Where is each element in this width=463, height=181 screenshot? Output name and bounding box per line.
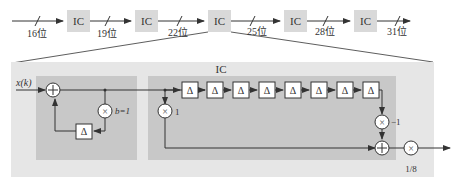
svg-text:Δ: Δ [264,85,271,96]
ic-block-5: IC [354,10,377,32]
integrator-gain: b=1 [115,106,130,116]
ic-block-1: IC [67,10,90,32]
bit-width-label: 22位 [168,26,188,38]
svg-text:Δ: Δ [81,126,88,137]
svg-text:Δ: Δ [212,85,219,96]
svg-text:Δ: Δ [368,85,375,96]
ic-title: IC [216,63,227,75]
ic-block-4: IC [284,10,307,32]
svg-text:Δ: Δ [187,85,194,96]
integrator-multiplier: × [98,104,112,118]
comb-tap-multiplier: × [158,104,172,118]
svg-text:Δ: Δ [342,85,349,96]
svg-text:×: × [408,143,414,154]
output-scale-multiplier: × [404,141,418,155]
svg-text:IC: IC [290,15,301,27]
comb-negate-multiplier: × [375,115,389,129]
ic-block-2: IC [135,10,158,32]
ic-block-3: IC [208,10,231,32]
svg-text:IC: IC [214,15,225,27]
svg-text:Δ: Δ [238,85,245,96]
svg-text:Δ: Δ [290,85,297,96]
integrator-delay: Δ [76,124,92,139]
cascade-chain: IC IC IC IC IC 16位 19位 22位 25位 28位 31位 [12,10,410,39]
output-scale: 1/8 [405,164,417,174]
comb-gain: −1 [391,117,401,127]
svg-text:IC: IC [73,15,84,27]
bit-width-label: 28位 [315,25,335,37]
integrator-adder [46,83,60,97]
bit-width-label: 16位 [27,27,47,39]
comb-delay-chain: Δ Δ Δ Δ Δ Δ Δ Δ [165,82,379,98]
comb-adder [375,141,389,155]
svg-text:Δ: Δ [316,85,323,96]
svg-text:×: × [379,117,385,128]
svg-text:IC: IC [360,15,371,27]
svg-text:×: × [102,106,108,117]
bit-width-label: 31位 [387,25,407,37]
svg-text:IC: IC [141,15,152,27]
bit-width-label: 19位 [97,27,117,39]
input-label: x(k) [15,77,32,89]
cic-filter-diagram: IC IC IC IC IC 16位 19位 22位 25位 28位 31位 I [0,0,463,181]
svg-text:×: × [162,106,168,117]
tap-gain: 1 [175,107,180,117]
